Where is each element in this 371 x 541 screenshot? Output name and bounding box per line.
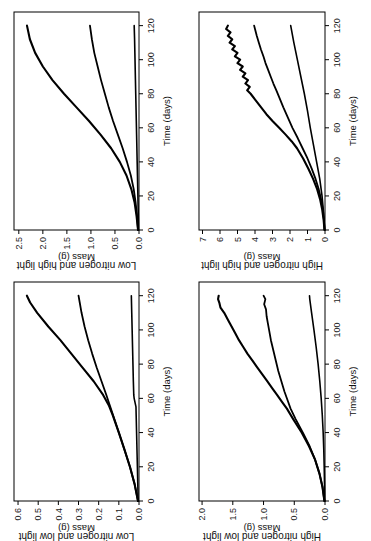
chart-panel-top-left: 0204060801001200.00.51.01.52.02.5Time (d…	[0, 0, 185, 270]
x-tick-label: 80	[146, 359, 156, 369]
x-axis-title: Time (days)	[161, 96, 172, 146]
curve-upper-curve	[27, 296, 138, 501]
plot-frame	[199, 282, 325, 501]
y-tick-label: 2	[285, 237, 295, 242]
panel-title: Low nitrogen and high light	[17, 260, 137, 270]
chart-panel-top-right: 02040608010012001234567Time (days)Mass (…	[185, 0, 371, 270]
y-tick-label: 2.0	[38, 237, 48, 250]
curve-upper-curve	[218, 296, 324, 501]
x-tick-label: 120	[332, 18, 342, 33]
figure-panel-grid: 0204060801001200.00.51.01.52.02.5Time (d…	[0, 0, 371, 541]
y-tick-label: 0.5	[289, 508, 299, 521]
x-tick-label: 20	[332, 462, 342, 472]
panel-title: Low nitrogen and low light	[18, 531, 134, 541]
curve-middle-curve	[79, 296, 138, 501]
curve-middle-curve	[90, 26, 138, 230]
y-tick-label: 2.5	[14, 237, 24, 250]
chart-panel-bottom-left: 0204060801001200.00.10.20.30.40.50.6Time…	[0, 270, 185, 541]
panel-title: High nitrogen and low light	[203, 531, 321, 541]
x-tick-label: 100	[146, 52, 156, 67]
y-tick-label: 0.1	[114, 508, 124, 521]
x-tick-label: 100	[332, 322, 342, 337]
plot-frame	[199, 12, 325, 230]
x-axis-title: Time (days)	[161, 367, 172, 417]
x-tick-label: 80	[332, 89, 342, 99]
y-tick-label: 0.0	[134, 237, 144, 250]
y-tick-label: 0.0	[134, 508, 144, 521]
curve-middle-curve	[254, 26, 325, 230]
chart-rotation-wrapper: 02040608010012001234567Time (days)Mass (…	[185, 0, 371, 270]
curve-lower-curve	[310, 296, 325, 501]
x-tick-label: 120	[146, 288, 156, 303]
x-tick-label: 40	[332, 428, 342, 438]
x-tick-label: 0	[332, 227, 342, 232]
x-tick-label: 40	[332, 157, 342, 167]
chart-rotation-wrapper: 0204060801001200.00.51.01.52.02.5Time (d…	[0, 0, 185, 270]
y-tick-label: 1.0	[259, 508, 269, 521]
y-tick-label: 0.0	[320, 508, 330, 521]
y-tick-label: 0.4	[54, 508, 64, 521]
y-tick-label: 1.5	[62, 237, 72, 250]
x-tick-label: 0	[146, 227, 156, 232]
y-tick-label: 4	[250, 237, 260, 242]
chart-svg: 0204060801001200.00.51.01.52.02.5Time (d…	[0, 0, 185, 270]
y-tick-label: 0.2	[94, 508, 104, 521]
x-tick-label: 100	[146, 322, 156, 337]
x-tick-label: 60	[332, 393, 342, 403]
plot-frame	[14, 282, 139, 501]
x-tick-label: 40	[146, 428, 156, 438]
y-tick-label: 6	[215, 237, 225, 242]
x-tick-label: 80	[146, 89, 156, 99]
x-tick-label: 60	[146, 393, 156, 403]
chart-panel-bottom-right: 0204060801001200.00.51.01.52.0Time (days…	[185, 270, 371, 541]
x-tick-label: 120	[332, 288, 342, 303]
y-tick-label: 0.5	[33, 508, 43, 521]
y-tick-label: 2.0	[197, 508, 207, 521]
x-tick-label: 0	[332, 498, 342, 503]
y-tick-label: 1	[303, 237, 313, 242]
y-tick-label: 0.5	[110, 237, 120, 250]
curve-upper-curve	[27, 26, 138, 230]
chart-svg: 0204060801001200.00.51.01.52.0Time (days…	[185, 270, 371, 541]
x-axis-title: Time (days)	[347, 367, 358, 417]
chart-rotation-wrapper: 0204060801001200.00.10.20.30.40.50.6Time…	[0, 270, 185, 541]
y-tick-label: 7	[198, 237, 208, 242]
chart-rotation-wrapper: 0204060801001200.00.51.01.52.0Time (days…	[185, 270, 371, 541]
y-tick-label: 3	[268, 237, 278, 242]
x-tick-label: 80	[332, 359, 342, 369]
x-tick-label: 120	[146, 18, 156, 33]
x-tick-label: 20	[146, 462, 156, 472]
x-tick-label: 60	[332, 123, 342, 133]
y-tick-label: 1.5	[228, 508, 238, 521]
x-tick-label: 40	[146, 157, 156, 167]
chart-svg: 0204060801001200.00.10.20.30.40.50.6Time…	[0, 270, 185, 541]
panel-title: High nitrogen and high light	[201, 260, 323, 270]
x-tick-label: 20	[332, 191, 342, 201]
y-tick-label: 0.6	[13, 508, 23, 521]
y-tick-label: 0.3	[74, 508, 84, 521]
curve-lower-curve	[131, 296, 138, 501]
x-tick-label: 20	[146, 191, 156, 201]
x-axis-title: Time (days)	[347, 96, 358, 146]
x-tick-label: 60	[146, 123, 156, 133]
curve-middle-curve	[264, 296, 325, 501]
x-tick-label: 100	[332, 52, 342, 67]
y-tick-label: 0	[320, 237, 330, 242]
y-tick-label: 1.0	[86, 237, 96, 250]
y-tick-label: 5	[233, 237, 243, 242]
x-tick-label: 0	[146, 498, 156, 503]
chart-svg: 02040608010012001234567Time (days)Mass (…	[185, 0, 371, 270]
